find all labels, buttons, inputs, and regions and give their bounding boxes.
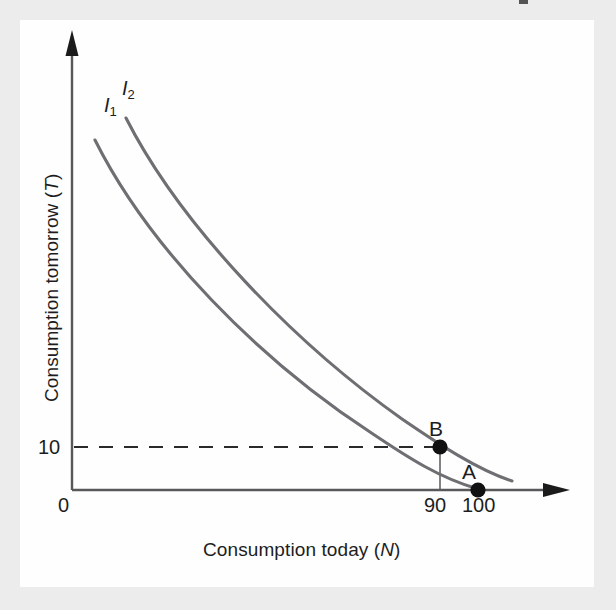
curve-label-i1: I1: [104, 95, 117, 115]
point-label-a: A: [462, 461, 476, 482]
x-axis-title: Consumption today (N): [203, 540, 400, 559]
indifference-curve-i1: [95, 140, 478, 489]
point-label-b: B: [429, 418, 443, 439]
y-axis: [66, 30, 79, 490]
x-tick-label-100: 100: [462, 495, 495, 515]
curve-label-i2: I2: [122, 78, 135, 98]
indifference-curve-chart: [0, 0, 616, 610]
data-point-b: [432, 439, 447, 454]
y-tick-label-10: 10: [38, 437, 60, 457]
origin-label: 0: [58, 495, 69, 515]
indifference-curve-i2: [126, 118, 512, 481]
x-tick-label-90: 90: [424, 495, 446, 515]
y-axis-title: Consumption tomorrow (T): [42, 174, 61, 402]
